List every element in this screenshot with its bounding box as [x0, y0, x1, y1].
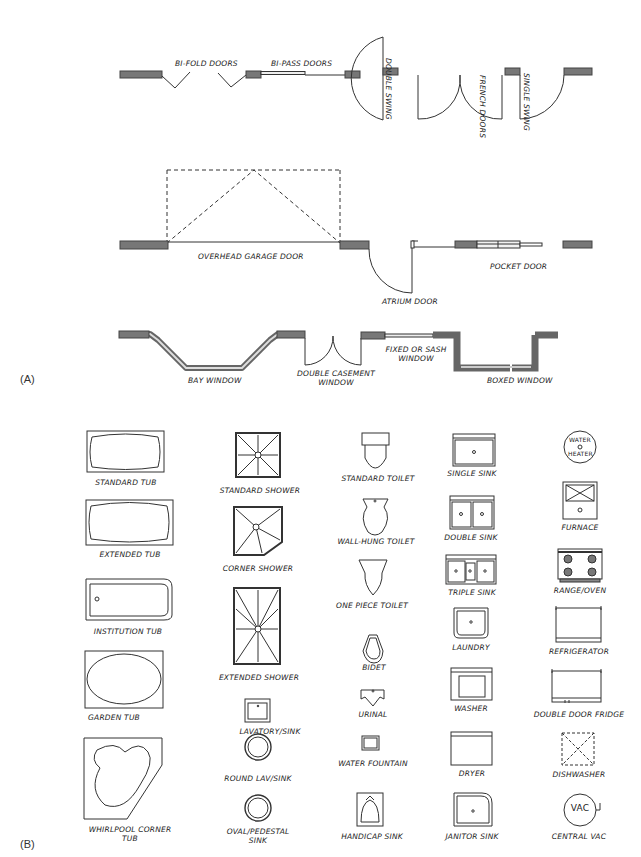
label-furnace: FURNACE: [556, 523, 604, 532]
label-range-oven: RANGE/OVEN: [548, 586, 612, 595]
label-handicap-sink: HANDICAP SINK: [334, 832, 410, 841]
standard-toilet-icon: [362, 433, 389, 445]
round-lav-sink-icon: [245, 734, 271, 760]
label-urinal: URINAL: [353, 710, 393, 719]
double-sink-icon: [450, 496, 494, 529]
label-oval-pedestal-sink: OVAL/PEDESTAL SINK: [222, 827, 294, 845]
garden-tub-icon: [85, 651, 163, 708]
label-double-door-fridge: DOUBLE DOOR FRIDGE: [524, 710, 634, 719]
dryer-icon: [451, 732, 492, 765]
label-central-vac: CENTRAL VAC: [546, 832, 612, 841]
label-whirlpool-corner-tub: WHIRLPOOL CORNER TUB: [80, 825, 180, 843]
central-vac-text: VAC: [568, 804, 592, 813]
label-extended-shower: EXTENDED SHOWER: [214, 673, 304, 682]
label-garden-tub: GARDEN TUB: [84, 713, 144, 722]
label-washer: WASHER: [448, 704, 494, 713]
label-dryer: DRYER: [452, 769, 492, 778]
double-door-fridge-icon: [552, 671, 601, 702]
label-water-fountain: WATER FOUNTAIN: [335, 759, 411, 768]
standard-tub-icon: [87, 431, 164, 472]
label-lavatory-sink: LAVATORY/SINK: [230, 727, 310, 736]
one-piece-toilet-icon: [359, 560, 387, 595]
label-corner-shower: CORNER SHOWER: [218, 564, 298, 573]
extended-tub-icon: [86, 500, 173, 545]
label-wall-hung-toilet: WALL-HUNG TOILET: [333, 537, 419, 546]
panel-b-drawing: [0, 0, 641, 857]
label-standard-shower: STANDARD SHOWER: [215, 486, 305, 495]
label-janitor-sink: JANITOR SINK: [444, 832, 500, 841]
wall-hung-toilet-icon: [363, 499, 388, 535]
label-single-sink: SINGLE SINK: [442, 469, 502, 478]
label-one-piece-toilet: ONE PIECE TOILET: [329, 601, 415, 610]
label-standard-tub: STANDARD TUB: [84, 478, 168, 487]
water-heater-text-top: WATER: [568, 436, 592, 443]
label-triple-sink: TRIPLE SINK: [442, 588, 502, 597]
washer-icon: [451, 668, 492, 700]
water-heater-text-bottom: HEATER: [568, 450, 592, 457]
refrigerator-icon: [556, 608, 601, 642]
oval-pedestal-sink-icon: [245, 795, 271, 821]
label-round-lav-sink: ROUND LAV/SINK: [222, 774, 294, 783]
label-bidet: BIDET: [355, 663, 393, 672]
panel-b-label: (B): [20, 838, 35, 850]
label-institution-tub: INSTITUTION TUB: [82, 627, 174, 636]
label-standard-toilet: STANDARD TOILET: [336, 474, 420, 483]
label-refrigerator: REFRIGERATOR: [542, 647, 616, 656]
label-dishwasher: DISHWASHER: [550, 770, 608, 779]
label-extended-tub: EXTENDED TUB: [86, 550, 174, 559]
label-laundry: LAUNDRY: [448, 643, 494, 652]
label-double-sink: DOUBLE SINK: [440, 533, 502, 542]
